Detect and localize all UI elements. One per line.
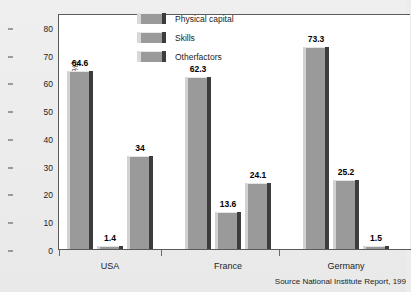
bar-value-label: 64.6 — [72, 58, 89, 68]
bar-value-label: 1.4 — [104, 233, 116, 243]
y-tick-label: 10 — [13, 218, 59, 228]
bar: 13.6 — [215, 212, 241, 250]
bar-value-label: 34 — [135, 143, 144, 153]
y-tick-label: 60 — [13, 79, 59, 89]
y-tick-label: 70 — [13, 52, 59, 62]
legend-swatch — [137, 13, 166, 24]
bar-value-label: 13.6 — [220, 199, 237, 209]
bar-side-shadow — [149, 156, 153, 250]
y-tick-mark — [8, 56, 13, 57]
y-tick-label: 0 — [13, 246, 59, 256]
legend-swatch-shadow — [162, 32, 166, 44]
legend-swatch-shadow — [162, 13, 166, 25]
bar: 62.3 — [185, 77, 211, 250]
y-tick-label: 80 — [13, 24, 59, 34]
y-tick-label: 40 — [13, 135, 59, 145]
bar: 34 — [127, 156, 153, 250]
y-tick-mark — [8, 223, 13, 224]
y-tick-mark — [8, 28, 13, 29]
legend-item: Physical capital — [137, 9, 234, 28]
x-axis-line — [58, 249, 411, 251]
x-tick-mark — [279, 250, 280, 256]
bar-value-label: 73.3 — [308, 34, 325, 44]
legend-swatch-shadow — [162, 51, 166, 63]
bar-side-shadow — [89, 71, 93, 250]
y-tick-label: 30 — [13, 163, 59, 173]
legend-item: Otherfactors — [137, 47, 234, 66]
source-note: Source National Institute Report, 199 — [226, 277, 406, 286]
legend-swatch — [137, 32, 166, 43]
y-tick-label: 20 — [13, 190, 59, 200]
bar-value-label: 25.2 — [338, 167, 355, 177]
y-tick-mark — [8, 251, 13, 252]
bar: 25.2 — [333, 180, 359, 250]
legend-item: Skills — [137, 28, 234, 47]
bar-side-shadow — [267, 183, 271, 250]
bar: 24.1 — [245, 183, 271, 250]
bar-value-label: 24.1 — [250, 170, 267, 180]
bar: 64.6 — [67, 71, 93, 250]
plot-area: Contribution of the gap (%) 010203040506… — [58, 14, 410, 250]
x-tick-label: USA — [101, 261, 120, 271]
y-tick-label: 50 — [13, 107, 59, 117]
bar-value-label: 1.5 — [370, 233, 382, 243]
legend-label: Skills — [175, 33, 195, 43]
y-tick-mark — [8, 112, 13, 113]
chart-legend: Physical capitalSkillsOtherfactors — [137, 9, 234, 66]
bar-side-shadow — [207, 77, 211, 250]
legend-label: Otherfactors — [175, 52, 222, 62]
bar-series-container: 64.61.43462.313.624.173.325.21.5 — [59, 15, 410, 250]
legend-swatch — [137, 51, 166, 62]
x-tick-mark — [59, 250, 60, 256]
bar-side-shadow — [355, 180, 359, 250]
bar-side-shadow — [325, 47, 329, 251]
y-tick-mark — [8, 167, 13, 168]
bar: 73.3 — [303, 47, 329, 251]
y-tick-mark — [8, 195, 13, 196]
y-tick-mark — [8, 84, 13, 85]
x-tick-label: Germany — [327, 261, 364, 271]
legend-label: Physical capital — [175, 14, 234, 24]
x-tick-label: France — [214, 261, 242, 271]
bar-side-shadow — [237, 212, 241, 250]
x-tick-mark — [161, 250, 162, 256]
y-tick-mark — [8, 139, 13, 140]
